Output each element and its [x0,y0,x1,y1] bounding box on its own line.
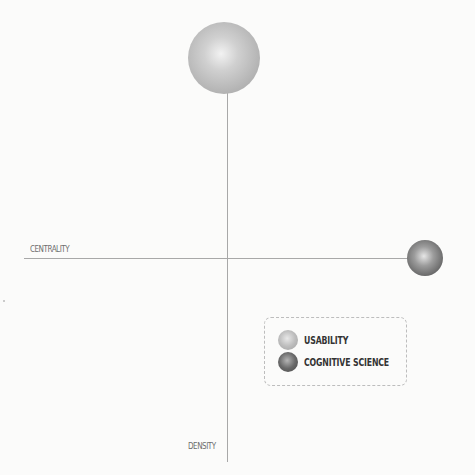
legend-label: COGNITIVE SCIENCE [304,357,389,368]
legend-item-cognitive-science: COGNITIVE SCIENCE [278,352,413,372]
density-axis-line [227,92,228,462]
legend-label: USABILITY [304,335,348,346]
chart-page: CENTRALITY DENSITY USABILITY COGNITIVE S… [0,0,475,475]
centrality-axis-label: CENTRALITY [30,244,69,254]
centrality-axis-line [24,258,410,259]
density-axis-label: DENSITY [188,441,216,451]
cognitive-science-swatch-icon [278,352,298,372]
legend-item-usability: USABILITY [278,330,361,350]
chart-legend: USABILITY COGNITIVE SCIENCE [264,317,407,386]
usability-swatch-icon [278,330,298,350]
usability-bubble [188,22,260,94]
scan-speck [3,300,5,302]
cognitive-science-bubble [407,240,443,276]
